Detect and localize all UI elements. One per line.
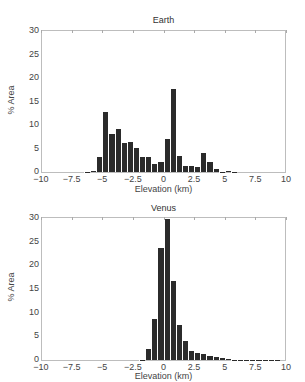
x-tick-mark: [255, 217, 256, 220]
x-tick-label: −10: [26, 362, 56, 372]
y-axis-label: % Area: [6, 272, 16, 301]
x-tick-label: −7.5: [57, 362, 87, 372]
y-tick-label: 10: [29, 308, 39, 317]
x-tick-label: −5: [87, 362, 117, 372]
x-tick-label: 5: [210, 362, 240, 372]
x-tick-mark: [72, 217, 73, 220]
x-tick-label: 2.5: [179, 362, 209, 372]
x-tick-label: −2.5: [118, 362, 148, 372]
x-tick-mark: [225, 217, 226, 220]
y-tick-label: 25: [29, 237, 39, 246]
x-tick-label: 0: [149, 362, 179, 372]
y-tick-label: 20: [29, 260, 39, 269]
x-tick-mark: [133, 217, 134, 220]
plot-area: [41, 217, 286, 361]
y-tick-label: 5: [34, 331, 39, 340]
x-axis-label: Elevation (km): [41, 371, 286, 381]
x-tick-label: 7.5: [240, 362, 270, 372]
x-tick-mark: [102, 217, 103, 220]
x-tick-mark: [41, 217, 42, 220]
x-tick-mark: [286, 217, 287, 220]
venus-chart: Venus % Area Elevation (km) 051015202530…: [0, 0, 305, 382]
x-tick-mark: [194, 217, 195, 220]
y-tick-label: 15: [29, 284, 39, 293]
x-tick-label: 10: [271, 362, 301, 372]
chart-title: Venus: [41, 203, 286, 213]
histogram-bar: [274, 360, 280, 361]
y-tick-label: 30: [29, 213, 39, 222]
x-tick-mark: [164, 217, 165, 220]
